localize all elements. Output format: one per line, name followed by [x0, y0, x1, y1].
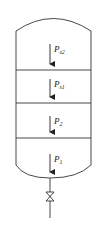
vessel-diagram: Ps2 Ps1 P2 P1 [0, 0, 100, 229]
label-ps1: Ps1 [53, 79, 65, 90]
bottom-head [16, 165, 91, 178]
valve-icon [46, 192, 54, 201]
label-ps2: Ps2 [53, 44, 65, 55]
top-head [16, 19, 91, 32]
label-p2: P2 [53, 116, 63, 127]
label-p1: P1 [53, 154, 63, 165]
